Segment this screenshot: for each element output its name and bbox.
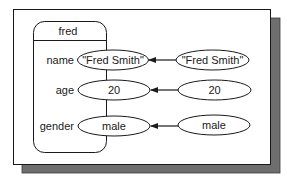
incoming-value-age: 20 xyxy=(178,80,251,100)
field-value-text: "Fred Smith" xyxy=(82,54,144,66)
incoming-value-name: "Fred Smith" xyxy=(176,50,249,70)
field-value-text: 20 xyxy=(108,84,120,96)
object-name: fred xyxy=(59,25,78,37)
object-assignment-diagram: fred name age gender "Fred Smith" 20 mal… xyxy=(0,0,287,180)
field-label-age: age xyxy=(56,84,74,96)
incoming-value-text: male xyxy=(202,119,226,131)
field-label-name: name xyxy=(46,54,74,66)
field-value-gender: male xyxy=(78,116,150,136)
field-value-text: male xyxy=(102,120,126,132)
incoming-value-text: 20 xyxy=(208,84,220,96)
field-label-gender: gender xyxy=(40,120,75,132)
incoming-value-gender: male xyxy=(178,115,250,135)
incoming-value-text: "Fred Smith" xyxy=(182,54,244,66)
field-value-age: 20 xyxy=(78,80,150,100)
field-value-name: "Fred Smith" xyxy=(78,50,149,70)
